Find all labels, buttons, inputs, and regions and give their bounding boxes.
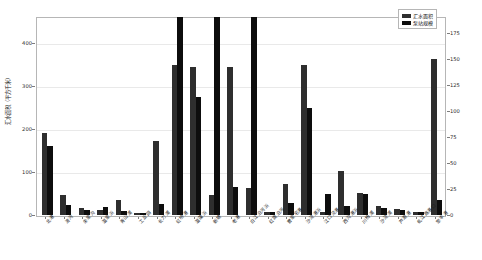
bar-group <box>168 19 187 215</box>
bar-group <box>427 19 446 215</box>
y-tick-label: 100 <box>10 169 32 175</box>
bar-group <box>316 19 335 215</box>
bar-pump-capacity <box>307 108 313 215</box>
right-tick-label: 125 <box>450 82 472 88</box>
bar-group <box>149 19 168 215</box>
right-tick-mark <box>447 189 450 190</box>
bar-pump-capacity <box>177 17 183 215</box>
bar-group <box>242 19 261 215</box>
right-tick-mark <box>447 163 450 164</box>
bar-group <box>38 19 57 215</box>
right-tick-label: 25 <box>450 186 472 192</box>
right-tick-label: 75 <box>450 134 472 140</box>
y-tick-mark <box>32 86 35 87</box>
right-tick-label: 175 <box>450 30 472 36</box>
bar-group <box>57 19 76 215</box>
chart-root: 汇水面积（平方千米） 泵站规模（参考水位） 0100200300400 0255… <box>0 0 482 260</box>
bar-group <box>390 19 409 215</box>
y-tick-label: 300 <box>10 83 32 89</box>
legend-swatch-capacity <box>402 21 411 25</box>
legend-label-capacity: 泵站规模 <box>413 19 433 26</box>
bar-group <box>409 19 428 215</box>
right-tick-label: 0 <box>450 212 472 218</box>
bar-group <box>298 19 317 215</box>
bar-group <box>75 19 94 215</box>
y-tick-label: 400 <box>10 40 32 46</box>
bar-pump-capacity <box>47 146 53 215</box>
bar-group <box>372 19 391 215</box>
bar-pump-capacity <box>214 17 220 215</box>
y-tick-mark <box>32 215 35 216</box>
legend-item: 泵站规模 <box>402 19 433 26</box>
bar-group <box>205 19 224 215</box>
right-tick-mark <box>447 85 450 86</box>
bar-group <box>261 19 280 215</box>
y-tick-mark <box>32 43 35 44</box>
right-tick-label: 100 <box>450 108 472 114</box>
right-tick-mark <box>447 59 450 60</box>
bar-group <box>223 19 242 215</box>
bar-pump-capacity <box>233 187 239 215</box>
right-tick-mark <box>447 33 450 34</box>
legend: 汇水面积 泵站规模 <box>398 9 437 29</box>
legend-label-catchment: 汇水面积 <box>413 12 433 19</box>
bar-group <box>335 19 354 215</box>
bar-group <box>353 19 372 215</box>
bar-group <box>279 19 298 215</box>
y-tick-label: 200 <box>10 126 32 132</box>
plot-area <box>36 17 446 217</box>
legend-item: 汇水面积 <box>402 12 433 19</box>
right-tick-label: 50 <box>450 160 472 166</box>
right-tick-mark <box>447 111 450 112</box>
bar-group <box>131 19 150 215</box>
bar-pump-capacity <box>196 97 202 215</box>
bar-catchment-area <box>431 59 437 215</box>
bar-pump-capacity <box>251 17 257 215</box>
bar-group <box>112 19 131 215</box>
right-tick-mark <box>447 215 450 216</box>
y-axis-title: 汇水面积（平方千米） <box>4 40 12 160</box>
right-tick-mark <box>447 137 450 138</box>
right-tick-label: 150 <box>450 56 472 62</box>
legend-swatch-catchment <box>402 14 411 18</box>
y-tick-mark <box>32 172 35 173</box>
y-tick-label: 0 <box>10 212 32 218</box>
y-tick-mark <box>32 129 35 130</box>
bar-group <box>94 19 113 215</box>
bar-group <box>186 19 205 215</box>
bars-container <box>38 19 444 215</box>
